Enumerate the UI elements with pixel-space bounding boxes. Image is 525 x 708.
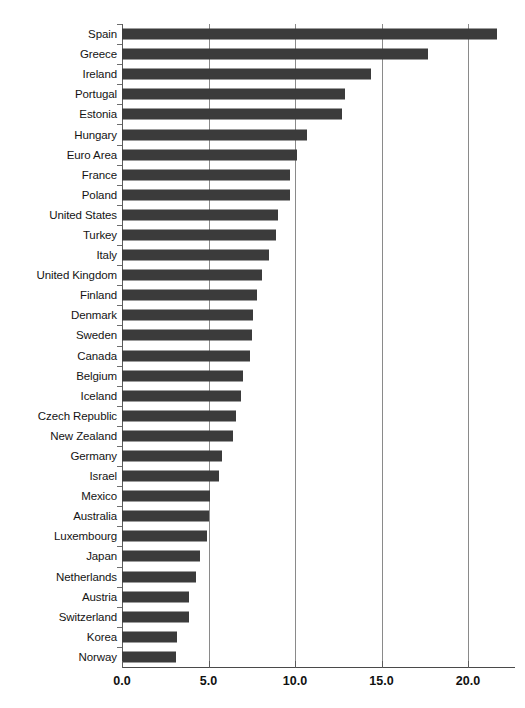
bar-row: United States (0, 205, 525, 225)
bar (122, 169, 290, 180)
bar-row: Norway (0, 647, 525, 667)
bar (122, 250, 269, 261)
category-label: Korea (87, 630, 117, 643)
bar (122, 471, 219, 482)
bar (122, 209, 278, 220)
category-label: France (82, 168, 117, 181)
bar (122, 89, 345, 100)
bar (122, 290, 257, 301)
x-tick-mark (209, 661, 210, 668)
bar (122, 29, 497, 40)
category-label: Ireland (83, 68, 117, 81)
y-axis-tick (117, 24, 122, 25)
bar (122, 430, 233, 441)
category-label: Canada (77, 349, 117, 362)
x-tick-mark (382, 661, 383, 668)
category-label: Finland (80, 289, 117, 302)
y-axis-tick (117, 386, 122, 387)
category-label: Norway (79, 650, 117, 663)
y-axis-tick (117, 406, 122, 407)
bar-row: Estonia (0, 104, 525, 124)
y-axis-tick (117, 145, 122, 146)
bar (122, 571, 196, 582)
category-label: Luxembourg (54, 530, 117, 543)
bar (122, 511, 209, 522)
bar-row: Luxembourg (0, 526, 525, 546)
y-axis-tick (117, 466, 122, 467)
y-axis-tick (117, 366, 122, 367)
category-label: Turkey (83, 228, 117, 241)
y-axis-tick (117, 225, 122, 226)
x-tick-label: 20.0 (456, 674, 480, 688)
category-label: Portugal (75, 88, 117, 101)
y-axis-tick (117, 44, 122, 45)
category-label: United Kingdom (37, 269, 117, 282)
scan-artifact-text (18, 0, 318, 9)
bar-row: France (0, 165, 525, 185)
y-axis-tick (117, 305, 122, 306)
y-axis-tick (117, 526, 122, 527)
category-label: Spain (88, 28, 117, 41)
y-axis-tick (117, 245, 122, 246)
x-tick-label: 10.0 (283, 674, 307, 688)
y-axis-tick (117, 205, 122, 206)
category-label: Iceland (81, 389, 117, 402)
bar-row: Germany (0, 446, 525, 466)
bar (122, 611, 189, 622)
bar (122, 109, 342, 120)
category-label: Italy (96, 249, 117, 262)
category-label: Belgium (76, 369, 117, 382)
bar (122, 189, 290, 200)
y-axis-tick (117, 124, 122, 125)
bar (122, 129, 307, 140)
bar (122, 410, 236, 421)
bar-row: Canada (0, 346, 525, 366)
y-axis-tick (117, 446, 122, 447)
y-axis-tick (117, 265, 122, 266)
bar-row: Poland (0, 185, 525, 205)
y-axis-tick (117, 647, 122, 648)
bar-row: Greece (0, 44, 525, 64)
y-axis-tick (117, 506, 122, 507)
x-tick-mark (468, 661, 469, 668)
category-label: United States (49, 208, 117, 221)
category-label: New Zealand (50, 429, 117, 442)
category-label: Greece (80, 48, 117, 61)
bar-row: Denmark (0, 305, 525, 325)
bar (122, 310, 253, 321)
category-label: Euro Area (67, 148, 117, 161)
bar (122, 69, 371, 80)
bar-row: Czech Republic (0, 406, 525, 426)
bar (122, 229, 276, 240)
bar (122, 270, 262, 281)
y-axis-tick (117, 64, 122, 65)
x-tick-label: 5.0 (200, 674, 217, 688)
bar-row: Mexico (0, 486, 525, 506)
x-tick-label: 0.0 (113, 674, 130, 688)
category-label: Austria (82, 590, 117, 603)
y-axis-tick (117, 104, 122, 105)
bar (122, 451, 222, 462)
bar-row: Australia (0, 506, 525, 526)
category-label: Sweden (76, 329, 117, 342)
bar (122, 370, 243, 381)
category-label: Japan (86, 550, 117, 563)
bar-row: Netherlands (0, 567, 525, 587)
x-axis-line (122, 667, 515, 668)
category-label: Australia (73, 510, 117, 523)
bar (122, 551, 200, 562)
category-label: Netherlands (56, 570, 117, 583)
bar-row: Ireland (0, 64, 525, 84)
y-axis-tick (117, 567, 122, 568)
bar (122, 591, 189, 602)
y-axis-tick (117, 426, 122, 427)
x-tick-label: 15.0 (369, 674, 393, 688)
bar-row: Sweden (0, 325, 525, 345)
category-label: Germany (70, 450, 117, 463)
bar (122, 631, 177, 642)
bar-row: Italy (0, 245, 525, 265)
bar-row: Hungary (0, 124, 525, 144)
category-label: Israel (89, 470, 117, 483)
y-axis-tick (117, 285, 122, 286)
bar-row: Japan (0, 546, 525, 566)
